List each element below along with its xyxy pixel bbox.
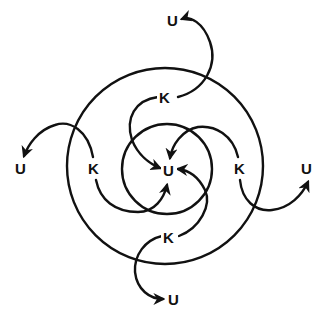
label-bottom-k: K <box>163 229 174 246</box>
arrow-bottom-k-to-center-u <box>178 169 207 236</box>
label-left-k: K <box>88 160 99 177</box>
arrow-bottom-k-to-bottom-u <box>135 236 163 299</box>
label-right-k: K <box>234 160 245 177</box>
label-right-u: U <box>301 160 312 177</box>
arrow-left-k-to-left-u <box>24 124 93 157</box>
label-left-u: U <box>15 160 26 177</box>
label-top-k: K <box>159 89 170 106</box>
diagram-canvas: K K K K U U U U U <box>0 0 327 326</box>
label-bottom-u: U <box>168 291 179 308</box>
arrow-top-k-to-top-u <box>178 18 212 97</box>
label-top-u: U <box>167 12 178 29</box>
arrow-top-k-to-center-u <box>130 97 160 168</box>
arrow-right-k-to-right-u <box>240 180 308 210</box>
label-center-u: U <box>163 162 174 179</box>
